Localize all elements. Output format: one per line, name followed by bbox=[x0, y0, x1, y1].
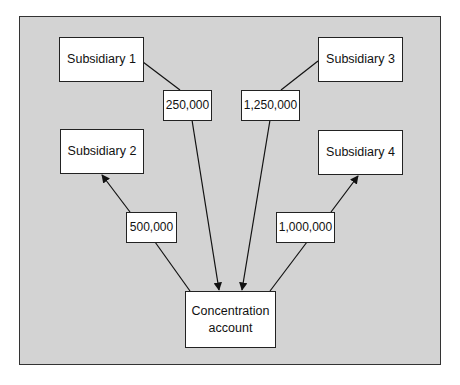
line-concentration-to-label-1000 bbox=[270, 242, 307, 291]
flow-amount-1250000: 1,250,000 bbox=[241, 90, 300, 121]
flow-amount-500000: 500,000 bbox=[126, 212, 177, 243]
line-sub1-to-label bbox=[143, 62, 180, 90]
flow-amount-1000000: 1,000,000 bbox=[276, 212, 335, 243]
amount-label: 1,000,000 bbox=[279, 219, 332, 236]
node-label: Subsidiary 4 bbox=[326, 144, 395, 161]
node-label-line2: account bbox=[209, 320, 253, 337]
line-sub3-to-label bbox=[281, 61, 318, 90]
node-subsidiary-1: Subsidiary 1 bbox=[59, 37, 144, 82]
node-concentration-account: Concentration account bbox=[185, 291, 276, 348]
line-concentration-to-label-500 bbox=[155, 242, 190, 291]
amount-label: 250,000 bbox=[166, 97, 209, 114]
arrow-to-concentration-3 bbox=[242, 120, 270, 290]
flow-amount-250000: 250,000 bbox=[163, 90, 212, 121]
node-label-line1: Concentration bbox=[192, 303, 270, 320]
arrow-to-sub4 bbox=[331, 176, 358, 212]
node-label: Subsidiary 2 bbox=[68, 143, 137, 160]
arrow-to-sub2 bbox=[102, 175, 130, 212]
node-subsidiary-4: Subsidiary 4 bbox=[318, 130, 403, 175]
amount-label: 1,250,000 bbox=[244, 97, 297, 114]
arrow-to-concentration-1 bbox=[192, 120, 219, 290]
node-label: Subsidiary 1 bbox=[67, 51, 136, 68]
amount-label: 500,000 bbox=[130, 219, 173, 236]
node-label: Subsidiary 3 bbox=[326, 51, 395, 68]
node-subsidiary-2: Subsidiary 2 bbox=[60, 129, 144, 174]
node-subsidiary-3: Subsidiary 3 bbox=[318, 37, 403, 82]
